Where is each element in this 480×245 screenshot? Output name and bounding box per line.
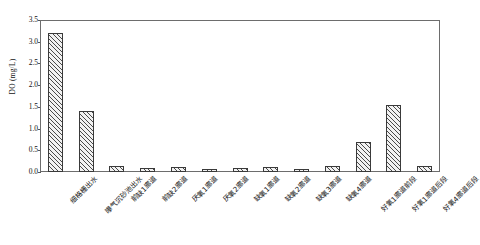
x-tick-label: 厌氧2廊道 [223, 176, 251, 204]
x-tick-label: 缺氧1廊道 [254, 176, 282, 204]
y-tick-label: 3.5 [16, 16, 38, 24]
x-tick-label: 缺氧4廊道 [346, 176, 374, 204]
bar [294, 169, 309, 172]
y-tick-label: 2.0 [16, 81, 38, 89]
plot-area [40, 20, 440, 172]
y-tick-mark [38, 172, 41, 173]
y-axis-ticks: 0.00.51.01.52.02.53.03.5 [14, 0, 38, 245]
bar [417, 166, 432, 172]
y-tick-label: 0.5 [16, 146, 38, 154]
y-tick-label: 0.0 [16, 168, 38, 176]
x-tick-label: 前缺2廊道 [161, 176, 189, 204]
bar [356, 142, 371, 172]
bar [386, 105, 401, 172]
bar [79, 111, 94, 172]
bar [171, 167, 186, 172]
x-tick-label: 细格栅出水 [70, 176, 100, 206]
y-tick-label: 1.0 [16, 125, 38, 133]
bar [140, 168, 155, 172]
x-tick-label: 厌氧1廊道 [192, 176, 220, 204]
bar [263, 167, 278, 172]
bar [48, 33, 63, 172]
bar [325, 166, 340, 172]
bar [109, 166, 124, 172]
bar [233, 168, 248, 172]
y-tick-label: 1.5 [16, 103, 38, 111]
y-tick-label: 2.5 [16, 59, 38, 67]
x-tick-label: 缺氧2廊道 [284, 176, 312, 204]
x-tick-label: 缺氧3廊道 [315, 176, 343, 204]
bar [202, 169, 217, 172]
y-tick-label: 3.0 [16, 38, 38, 46]
